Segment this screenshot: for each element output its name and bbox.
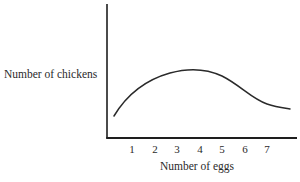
x-axis-label: Number of eggs bbox=[160, 160, 234, 172]
chart-canvas bbox=[0, 0, 300, 182]
x-tick-7: 7 bbox=[264, 143, 270, 155]
x-tick-1: 1 bbox=[129, 143, 135, 155]
data-curve bbox=[114, 70, 290, 116]
x-tick-4: 4 bbox=[197, 143, 203, 155]
x-tick-3: 3 bbox=[174, 143, 180, 155]
x-tick-5: 5 bbox=[219, 143, 225, 155]
y-axis-label: Number of chickens bbox=[4, 68, 97, 80]
x-tick-2: 2 bbox=[152, 143, 158, 155]
x-tick-6: 6 bbox=[242, 143, 248, 155]
